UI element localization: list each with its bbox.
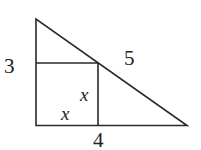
label-left-leg: 3 <box>4 54 15 78</box>
label-hypotenuse: 5 <box>124 46 135 70</box>
label-square-side-vertical: x <box>79 84 89 105</box>
label-square-side-horizontal: x <box>60 103 70 124</box>
label-bottom-leg: 4 <box>93 128 104 150</box>
right-triangle <box>36 19 187 126</box>
triangle-square-diagram: 3 5 4 x x <box>0 0 201 150</box>
